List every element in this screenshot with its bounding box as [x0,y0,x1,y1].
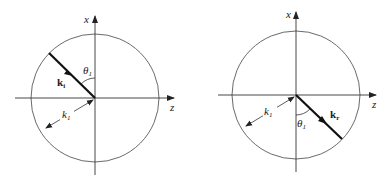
angle-arc [81,78,95,84]
z-axis-label: z [371,98,377,110]
angle-arc [296,109,310,115]
incident-vector-label: ki [57,76,65,90]
wavevector-diagrams: x z ki θ1 k1 x z kr [0,0,386,179]
angle-label: θ1 [83,64,92,78]
reflected-diagram: x z kr θ1 k1 [218,8,377,172]
incident-diagram: x z ki θ1 k1 [15,13,175,175]
x-axis-label: x [285,8,291,20]
angle-label: θ1 [297,117,306,131]
x-axis-label: x [83,13,89,25]
reflected-vector-label: kr [330,108,339,122]
z-axis-label: z [169,101,175,113]
